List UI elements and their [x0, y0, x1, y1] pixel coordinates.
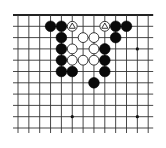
- black-stone: [56, 21, 67, 32]
- black-stone: [110, 32, 121, 43]
- white-stone: [78, 55, 88, 65]
- white-stone: [89, 55, 99, 65]
- black-stone: [99, 55, 110, 66]
- black-stone: [56, 55, 67, 66]
- white-stone: [67, 55, 77, 65]
- black-stone: [56, 44, 67, 55]
- white-stone: [67, 21, 77, 31]
- black-stone: [89, 77, 100, 88]
- black-stone: [45, 21, 56, 32]
- black-stone: [56, 66, 67, 77]
- black-stone: [99, 44, 110, 55]
- white-stone: [89, 44, 99, 54]
- black-stone: [121, 21, 132, 32]
- stones: [45, 21, 132, 88]
- star-point: [71, 115, 74, 118]
- white-stone: [89, 33, 99, 43]
- white-stone: [78, 33, 88, 43]
- black-stone: [99, 66, 110, 77]
- black-stone: [110, 21, 121, 32]
- white-stone: [67, 44, 77, 54]
- star-point: [136, 115, 139, 118]
- white-stone: [100, 21, 110, 31]
- black-stone: [67, 66, 78, 77]
- star-point: [136, 47, 139, 50]
- black-stone: [56, 32, 67, 43]
- go-board: [0, 0, 166, 148]
